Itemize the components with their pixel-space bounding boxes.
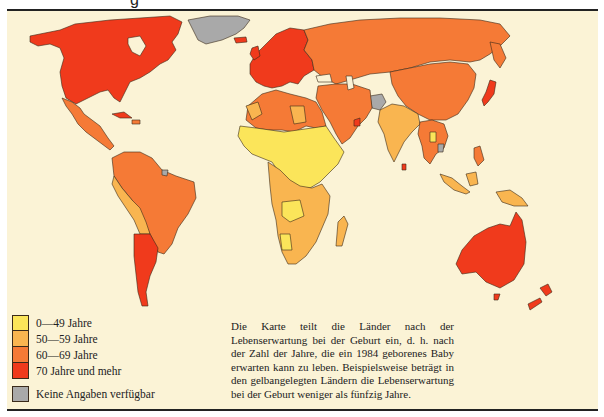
region-india-south-asia [378, 104, 420, 162]
region-europe [250, 28, 314, 88]
legend-swatch-gray [12, 386, 29, 402]
legend-item-60-69: 60—69 Jahre [12, 347, 155, 363]
legend-label: Keine Angaben verfügbar [36, 386, 155, 402]
clipped-heading-glyph: g [130, 0, 139, 9]
legend: 0—49 Jahre 50—59 Jahre 60—69 Jahre 70 Ja… [12, 315, 155, 402]
region-new-zealand [528, 284, 552, 310]
region-indonesia [440, 174, 470, 194]
region-argentina-chile [134, 234, 158, 306]
legend-label: 60—69 Jahre [36, 347, 98, 363]
legend-swatch-red [12, 363, 29, 379]
region-sahel-central-africa [238, 126, 344, 188]
map-caption: Die Karte teilt die Länder nach der Lebe… [231, 320, 454, 402]
region-australia [456, 212, 526, 288]
legend-label: 50—59 Jahre [36, 331, 98, 347]
legend-label: 0—49 Jahre [36, 315, 92, 331]
legend-swatch-yellow [12, 315, 29, 331]
legend-swatch-orange [12, 347, 29, 363]
region-mexico-central-america [62, 98, 114, 150]
map-panel: 0—49 Jahre 50—59 Jahre 60—69 Jahre 70 Ja… [7, 9, 598, 411]
legend-item-70-plus: 70 Jahre und mehr [12, 363, 155, 379]
legend-item-50-59: 50—59 Jahre [12, 331, 155, 347]
legend-label: 70 Jahre und mehr [36, 363, 121, 379]
region-north-america [30, 16, 182, 104]
legend-item-no-data: Keine Angaben verfügbar [12, 386, 155, 402]
legend-item-0-49: 0—49 Jahre [12, 315, 155, 331]
region-afghanistan [370, 94, 386, 110]
legend-swatch-light-orange [12, 331, 29, 347]
region-japan [482, 80, 496, 106]
